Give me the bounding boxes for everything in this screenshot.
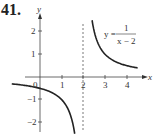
y-tick-neg1: −1 <box>27 94 37 104</box>
y-axis-label: y <box>36 4 41 14</box>
equation-lhs: y = <box>104 29 116 39</box>
x-tick-3: 3 <box>103 80 108 90</box>
x-tick-4: 4 <box>125 80 130 90</box>
equation-denominator: x − 2 <box>117 36 136 46</box>
hyperbola-chart: 0 1 2 3 4 2 1 −1 −2 y x y = 1 x − 2 <box>0 0 154 137</box>
left-branch-curve <box>12 84 75 134</box>
axis-ticks <box>38 31 127 122</box>
y-tick-2: 2 <box>31 26 36 36</box>
y-tick-neg2: −2 <box>27 117 37 127</box>
equation-numerator: 1 <box>124 23 129 33</box>
x-tick-2: 2 <box>81 80 86 90</box>
x-tick-0: 0 <box>33 80 38 90</box>
x-tick-1: 1 <box>60 80 65 90</box>
y-tick-1: 1 <box>31 49 36 59</box>
x-axis-label: x <box>147 72 152 82</box>
